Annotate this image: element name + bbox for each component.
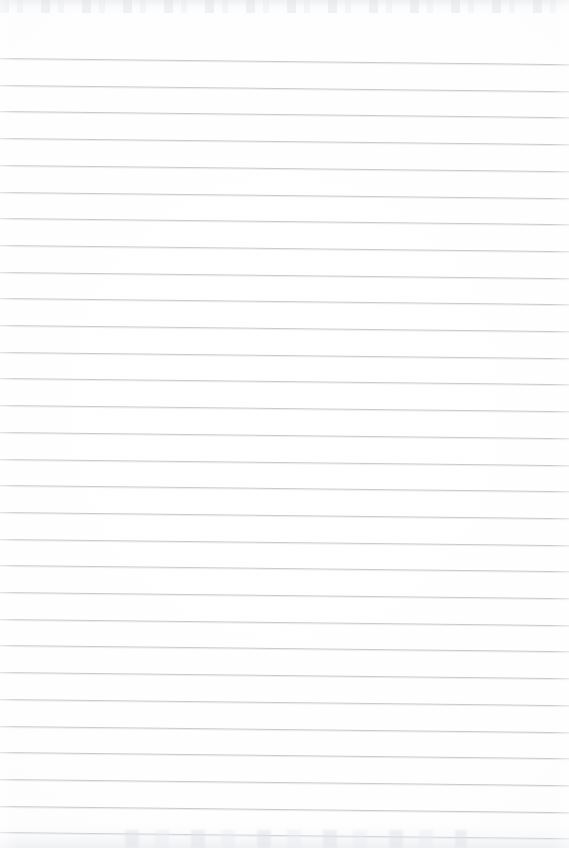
- ruled-line: [0, 245, 569, 252]
- ruled-line: [0, 272, 569, 279]
- ruled-line: [0, 58, 569, 65]
- ruled-line: [0, 85, 569, 92]
- ruled-line: [0, 138, 569, 145]
- ruled-line: [0, 699, 569, 706]
- ruled-line: [0, 485, 569, 492]
- bottom-edge-smudge: [0, 824, 569, 848]
- ruled-line: [0, 672, 569, 679]
- ruled-line: [0, 459, 569, 466]
- ruled-line: [0, 752, 569, 759]
- ruled-line: [0, 592, 569, 599]
- ruled-line: [0, 352, 569, 359]
- ruled-line: [0, 378, 569, 385]
- scanned-page: [0, 0, 569, 848]
- ruled-lines-group: [0, 0, 569, 848]
- ruled-line: [0, 325, 569, 332]
- ruled-line: [0, 645, 569, 652]
- ruled-line: [0, 111, 569, 118]
- ruled-line: [0, 218, 569, 225]
- ruled-line: [0, 619, 569, 626]
- ruled-line: [0, 779, 569, 786]
- ruled-line: [0, 512, 569, 519]
- ruled-line: [0, 298, 569, 305]
- ruled-line: [0, 405, 569, 412]
- ruled-line: [0, 192, 569, 199]
- ruled-line: [0, 726, 569, 733]
- ruled-line: [0, 806, 569, 813]
- ruled-line: [0, 165, 569, 172]
- ruled-line: [0, 432, 569, 439]
- ruled-line: [0, 565, 569, 572]
- ruled-line: [0, 539, 569, 546]
- top-edge-smudge: [0, 0, 569, 13]
